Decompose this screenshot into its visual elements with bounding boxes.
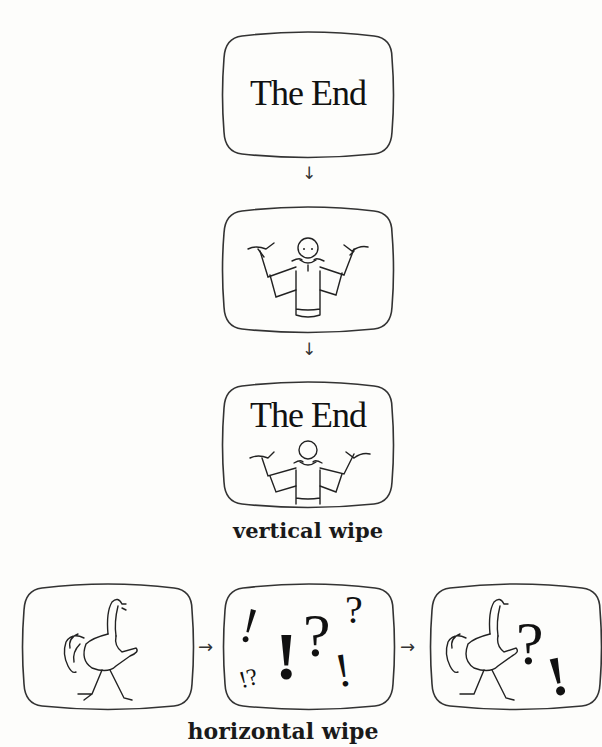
tv-frame-punctuation: ! !? ! ? ? !: [223, 582, 395, 712]
ostrich-icon: [22, 582, 194, 712]
horizontal-wipe-caption: horizontal wipe: [183, 718, 383, 744]
tv-frame-ostrich-punctuation: ? !: [430, 582, 602, 712]
down-arrow-icon: ↓: [302, 339, 316, 359]
tv-frame-man: [222, 205, 394, 335]
question-glyph: ?: [303, 604, 331, 666]
question-glyph: ?: [345, 590, 363, 630]
tv-frame-the-end-with-man: The End: [222, 380, 394, 510]
question-glyph: ?: [516, 612, 544, 674]
the-end-title: The End: [222, 72, 394, 114]
tv-frame-ostrich: [22, 582, 194, 712]
exclamation-glyph: !: [275, 622, 298, 690]
down-arrow-icon: ↓: [302, 163, 316, 183]
shrugging-man-icon: [222, 205, 394, 335]
right-arrow-icon: →: [198, 636, 213, 657]
right-arrow-icon: →: [400, 636, 415, 657]
vertical-wipe-caption: vertical wipe: [222, 518, 394, 543]
shrugging-man-icon: [222, 380, 394, 510]
tv-frame-the-end: The End: [222, 30, 394, 160]
